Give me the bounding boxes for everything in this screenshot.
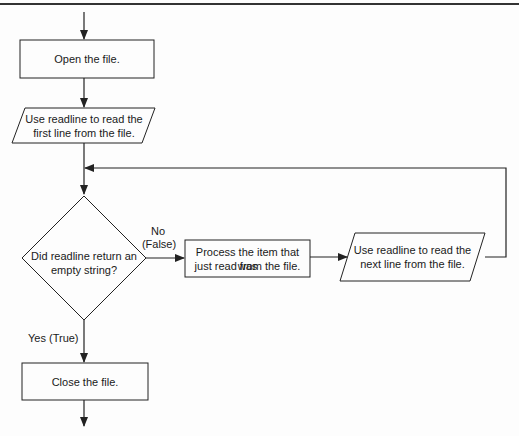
read-first-label-2: first line from the file. [14, 126, 154, 140]
close-file-label: Close the file. [22, 375, 148, 389]
open-file-label: Open the file. [20, 52, 154, 66]
read-first-label-1: Use readline to read the [14, 112, 154, 126]
read-next-label-1: Use readline to read the [345, 243, 480, 257]
no-label-2: (False) [137, 237, 181, 251]
decision-label-1: Did readline return an [24, 249, 144, 263]
yes-label: Yes (True) [28, 331, 80, 345]
no-label-1: No [140, 224, 176, 238]
read-next-label-2: next line from the file. [345, 257, 480, 271]
process-item-label-2: just read from the file. [185, 259, 310, 273]
decision-label-2: empty string? [24, 263, 144, 277]
